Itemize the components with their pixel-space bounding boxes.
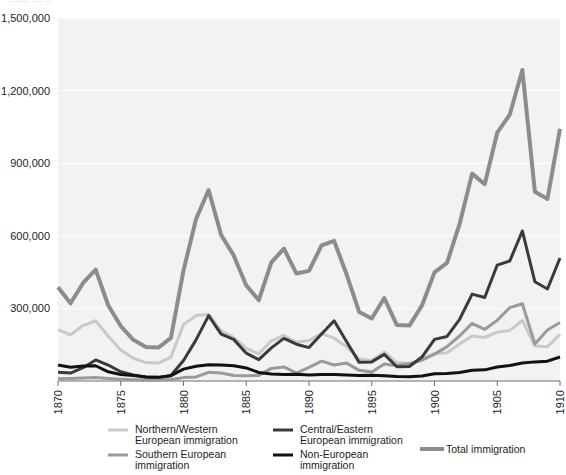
x-tick-label-1885: 1885 xyxy=(240,390,252,414)
x-tick-label-1900: 1900 xyxy=(429,390,441,414)
x-tick-label-1910: 1910 xyxy=(554,390,566,414)
x-tick-label-1880: 1880 xyxy=(178,390,190,414)
chart-legend: Northern/WesternEuropean immigrationSout… xyxy=(108,423,526,471)
legend-label-central-eastern-european-immigration-line2: European immigration xyxy=(300,434,403,446)
chart-canvas: 300,000600,000900,0001,200,0001,500,000 … xyxy=(0,0,566,475)
x-tick-label-1890: 1890 xyxy=(303,390,315,414)
y-tick-label-1200000: 1,200,000 xyxy=(1,85,50,97)
legend-label-non-european-immigration-line2: immigration xyxy=(300,459,354,471)
plot-background-group xyxy=(58,18,560,381)
x-tick-label-1870: 1870 xyxy=(52,390,64,414)
x-tick-label-1905: 1905 xyxy=(491,390,503,414)
y-tick-label-1500000: 1,500,000 xyxy=(1,12,50,24)
clipped-header-text: ......, .... .. xyxy=(10,0,51,4)
legend-label-total-immigration: Total immigration xyxy=(446,443,526,455)
y-tick-label-900000: 900,000 xyxy=(10,157,50,169)
plot-background xyxy=(58,18,560,381)
y-tick-label-600000: 600,000 xyxy=(10,230,50,242)
y-tick-label-300000: 300,000 xyxy=(10,302,50,314)
y-axis-tick-labels: 300,000600,000900,0001,200,0001,500,000 xyxy=(1,12,50,314)
legend-label-southern-european-immigration-line2: immigration xyxy=(135,459,189,471)
x-axis: 187018751880188518901895190019051910 xyxy=(52,381,566,414)
legend-label-northern-western-european-immigration-line2: European immigration xyxy=(135,434,238,446)
x-tick-label-1895: 1895 xyxy=(366,390,378,414)
immigration-line-chart: ......, .... .. 300,000600,000900,0001,2… xyxy=(0,0,566,475)
x-tick-label-1875: 1875 xyxy=(115,390,127,414)
